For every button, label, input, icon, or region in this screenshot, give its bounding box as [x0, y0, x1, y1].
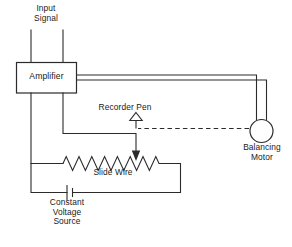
input-signal-leads — [31, 30, 63, 62]
schematic-diagram: Input Signal Amplifier Recorder Pen Slid… — [0, 0, 292, 247]
balancing-motor-label: Balancing Motor — [228, 143, 292, 162]
battery-to-left-rail — [31, 164, 67, 193]
recorder-pen-marker — [130, 113, 142, 129]
amplifier-label: Amplifier — [16, 72, 77, 82]
recorder-pen-arrowhead — [130, 113, 142, 121]
balancing-motor-circle — [250, 120, 273, 143]
amplifier-to-slidewire-left — [31, 93, 63, 164]
motor-wire-lower — [77, 80, 267, 121]
input-signal-label: Input Signal — [0, 4, 92, 23]
slide-wire-label: Slide Wire — [76, 168, 150, 178]
motor-wire-upper — [77, 75, 257, 121]
constant-voltage-source-label: Constant Voltage Source — [28, 198, 106, 227]
amplifier-motor-output-wires — [77, 75, 267, 121]
recorder-pen-label: Recorder Pen — [86, 103, 164, 113]
wiper-arrowhead — [132, 151, 140, 162]
